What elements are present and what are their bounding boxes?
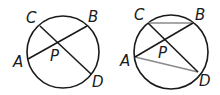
label-c: C <box>134 6 145 24</box>
label-a: A <box>119 52 130 70</box>
circle-1 <box>27 16 99 88</box>
diagram-canvas: C B A D P C B A D P <box>0 0 220 95</box>
label-b: B <box>88 8 98 26</box>
figure-2: C B A D P <box>119 6 211 90</box>
chord-cd <box>40 26 91 74</box>
label-p: P <box>158 44 168 62</box>
label-c: C <box>26 9 37 27</box>
label-d: D <box>92 73 104 91</box>
chord-cd <box>148 23 198 72</box>
label-p: P <box>50 47 60 65</box>
label-d: D <box>199 72 211 90</box>
label-b: B <box>195 6 205 24</box>
label-a: A <box>12 53 23 71</box>
figure-1: C B A D P <box>12 8 104 91</box>
